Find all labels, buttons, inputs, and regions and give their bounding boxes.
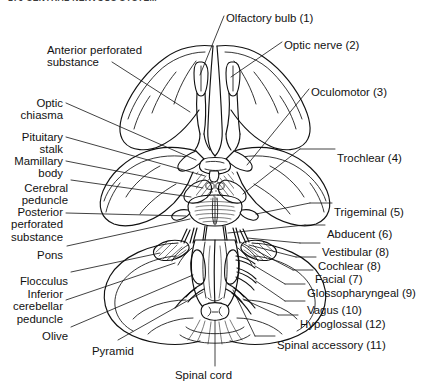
brain-inferior-surface-figure: .o{fill:none;stroke:#111;stroke-width:1.… bbox=[0, 0, 430, 386]
label-spinal-cord: Spinal cord bbox=[175, 369, 232, 381]
label-cochlear: Cochlear (8) bbox=[318, 260, 381, 272]
label-oculomotor: Oculomotor (3) bbox=[311, 86, 387, 98]
label-vestibular: Vestibular (8) bbox=[322, 246, 389, 258]
label-optic-chiasma: Optic chiasma bbox=[0, 97, 63, 122]
label-optic-nerve: Optic nerve (2) bbox=[284, 39, 359, 51]
label-vagus: Vagus (10) bbox=[307, 304, 362, 316]
label-abducent: Abducent (6) bbox=[327, 228, 392, 240]
label-anterior-perforated-substance: Anterior perforated substance bbox=[47, 44, 142, 69]
label-cerebral-peduncle: Cerebral peduncle bbox=[0, 182, 68, 207]
olfactory-bulb bbox=[194, 62, 208, 96]
label-facial: Facial (7) bbox=[315, 273, 362, 285]
label-pituitary-stalk: Pituitary stalk bbox=[0, 131, 63, 156]
pons bbox=[188, 195, 242, 226]
label-trigeminal: Trigeminal (5) bbox=[334, 206, 404, 218]
label-posterior-perforated-substance: Posterior perforated substance bbox=[0, 206, 63, 243]
frontal-lobe-right bbox=[217, 46, 310, 150]
label-olfactory-bulb: Olfactory bulb (1) bbox=[226, 12, 313, 24]
label-flocculus: Flocculus bbox=[0, 275, 68, 287]
label-inferior-cerebellar-peduncle: Inferior cerebellar peduncle bbox=[0, 288, 63, 325]
label-mamillary-body: Mamillary body bbox=[0, 155, 63, 180]
label-pons: Pons bbox=[0, 249, 63, 261]
longitudinal-fissure bbox=[208, 46, 222, 156]
label-hypoglossal: Hypoglossal (12) bbox=[300, 318, 385, 330]
label-glossopharyngeal: Glossopharyngeal (9) bbox=[307, 287, 416, 299]
olfactory-tract-right bbox=[226, 93, 240, 150]
pituitary-stalk bbox=[209, 171, 218, 182]
label-olive: Olive bbox=[0, 330, 68, 342]
abducent-nerve bbox=[203, 226, 227, 240]
cerebellar-hemisphere-left bbox=[104, 243, 200, 344]
label-pyramid: Pyramid bbox=[92, 345, 134, 357]
label-trochlear: Trochlear (4) bbox=[337, 152, 402, 164]
label-spinal-accessory: Spinal accessory (11) bbox=[277, 339, 386, 351]
olfactory-bulb-right bbox=[226, 62, 240, 96]
